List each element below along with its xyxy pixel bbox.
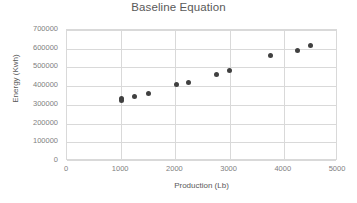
gridline-vertical <box>175 30 176 159</box>
x-tick-label: 5000 <box>329 165 346 173</box>
x-tick-label: 1000 <box>112 165 129 173</box>
data-point <box>268 53 273 58</box>
data-point <box>227 68 232 73</box>
data-point <box>132 94 137 99</box>
y-tick-label: 100000 <box>33 138 58 146</box>
data-point <box>308 43 313 48</box>
y-tick-label: 0 <box>54 156 58 164</box>
y-tick-label: 200000 <box>33 119 58 127</box>
x-tick-label: 0 <box>64 165 68 173</box>
data-point <box>146 91 151 96</box>
x-axis-tick-labels: 010002000300040005000 <box>0 165 357 177</box>
gridline-horizontal <box>67 30 336 31</box>
gridline-horizontal <box>67 124 336 125</box>
x-tick-label: 2000 <box>166 165 183 173</box>
data-point <box>214 72 219 77</box>
chart-container: Baseline Equation Energy (Kwh) 010000020… <box>0 0 357 203</box>
gridline-horizontal <box>67 67 336 68</box>
y-tick-label: 300000 <box>33 100 58 108</box>
y-axis-tick-labels: 0100000200000300000400000500000600000700… <box>0 29 62 160</box>
data-point <box>186 80 191 85</box>
data-point <box>119 96 124 101</box>
gridline-vertical <box>121 30 122 159</box>
x-tick-label: 3000 <box>220 165 237 173</box>
x-axis-title: Production (Lb) <box>66 181 337 190</box>
gridline-horizontal <box>67 142 336 143</box>
x-tick-label: 4000 <box>274 165 291 173</box>
gridline-vertical <box>230 30 231 159</box>
y-tick-label: 500000 <box>33 63 58 71</box>
data-point <box>295 48 300 53</box>
gridline-horizontal <box>67 86 336 87</box>
gridline-vertical <box>284 30 285 159</box>
chart-title: Baseline Equation <box>0 1 357 13</box>
gridline-horizontal <box>67 105 336 106</box>
y-tick-label: 700000 <box>33 25 58 33</box>
y-tick-label: 400000 <box>33 81 58 89</box>
plot-area <box>66 29 337 160</box>
gridline-horizontal <box>67 160 336 161</box>
y-tick-label: 600000 <box>33 44 58 52</box>
